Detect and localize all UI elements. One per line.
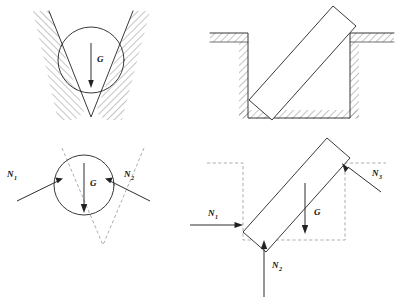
normal-force-2-label: N (123, 169, 131, 179)
normal-force-1-arrow-fbd (190, 222, 243, 228)
groove-construction-line-left (62, 148, 103, 245)
normal-force-1-subscript: 1 (14, 175, 17, 181)
weight-label-fbd-bar: G (314, 207, 321, 217)
panel-ball-free-body: N 1 N 2 G (6, 148, 150, 245)
normal-force-1-subscript-fbd: 1 (215, 214, 218, 220)
weight-force-arrow-fbd (81, 163, 87, 213)
panel-ball-in-v-groove: G (25, 5, 158, 130)
normal-force-2-label-fbd: N (271, 260, 279, 270)
groove-construction-line-right (103, 148, 144, 245)
panel-bar-in-trench (210, 6, 394, 120)
bar-body (249, 6, 356, 120)
normal-force-2-arrow-fbd (261, 240, 267, 297)
normal-force-1-label-group-fbd: N 1 (207, 208, 218, 220)
trench-left-wall-hatch (239, 42, 248, 118)
physics-diagram-figure: G N 1 N 2 G (0, 0, 398, 300)
normal-force-2-subscript: 2 (130, 175, 134, 181)
normal-force-3-label-group-fbd: N 3 (371, 168, 382, 180)
panel-bar-free-body: N 1 N 2 N 3 G (190, 138, 386, 297)
bar-body-fbd (243, 138, 350, 252)
normal-force-2-label-group: N 2 (123, 169, 134, 181)
weight-force-arrow (88, 43, 94, 88)
normal-force-3-subscript-fbd: 3 (378, 174, 382, 180)
normal-force-3-label-fbd: N (371, 168, 379, 178)
trench-right-ground-hatch (350, 33, 394, 42)
normal-force-1-label: N (6, 169, 14, 179)
weight-label: G (97, 54, 104, 64)
trench-right-wall-hatch (350, 42, 359, 118)
weight-label-fbd: G (90, 178, 97, 188)
normal-force-2-subscript-fbd: 2 (278, 266, 282, 272)
v-groove-left-wall-hatch (25, 5, 95, 130)
trench-left-ground-hatch (210, 33, 248, 42)
normal-force-2-label-group-fbd: N 2 (271, 260, 282, 272)
normal-force-1-arrow (17, 178, 63, 201)
normal-force-1-label-group: N 1 (6, 169, 17, 181)
normal-force-1-label-fbd: N (207, 208, 215, 218)
diagram-canvas: G N 1 N 2 G (0, 0, 398, 300)
